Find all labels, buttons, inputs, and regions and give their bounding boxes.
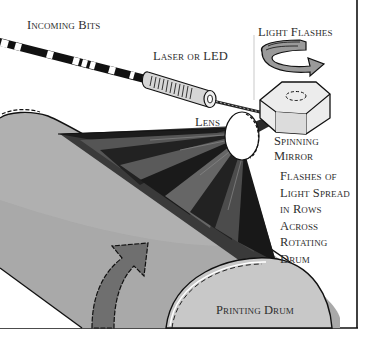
lens-label: Lens [195,115,220,130]
lens [225,112,259,160]
flashes-line-1: Flashes of [280,168,350,185]
spinning-mirror-label: Spinning Mirror [274,134,319,164]
rotation-arrow-icon [261,40,324,76]
flashes-line-6: Drum [280,251,350,268]
flashes-line-2: Light Spread [280,185,350,202]
laser-printer-diagram: Incoming Bits Laser or LED Light Flashes… [0,0,365,342]
incoming-bits-text: Incoming Bits [27,18,100,32]
flashes-line-4: Across [280,218,350,235]
laser-or-led-label: Laser or LED [153,49,228,64]
laser-or-led-text: Laser or LED [153,49,228,63]
printing-drum-label: Printing Drum [216,303,294,318]
incoming-bits-stream [0,38,150,84]
incoming-bits-label: Incoming Bits [27,18,100,33]
printing-drum-text: Printing Drum [216,303,294,317]
light-flashes-text: Light Flashes [258,25,333,39]
light-flashes-label: Light Flashes [258,25,333,40]
flashes-description-label: Flashes of Light Spread in Rows Across R… [280,168,350,267]
laser-emitter [142,72,262,114]
flashes-line-3: in Rows [280,201,350,218]
spinning-mirror [260,82,330,134]
spinning-mirror-line-1: Spinning [274,134,319,149]
flashes-line-5: Rotating [280,234,350,251]
lens-text: Lens [195,115,220,129]
spinning-mirror-line-2: Mirror [274,149,319,164]
